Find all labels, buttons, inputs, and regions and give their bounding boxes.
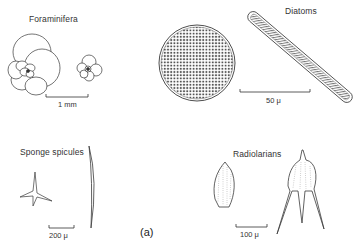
centric-diatom xyxy=(159,25,235,101)
microfossil-figure: Foraminifera 1 mm Diatoms 50 μ Sponge sp… xyxy=(0,0,356,245)
sponge-scale-bar xyxy=(49,225,74,228)
diatom-scale-bar xyxy=(240,89,310,92)
panel-label: (a) xyxy=(140,226,153,238)
foraminifera-scale-bar xyxy=(46,94,88,97)
label-sponge-spicules: Sponge spicules xyxy=(20,147,84,157)
foraminifera-small-shell xyxy=(77,55,102,81)
label-diatoms: Diatoms xyxy=(285,6,317,16)
radiolarian-scale-bar xyxy=(236,224,267,227)
pennate-diatom xyxy=(245,9,354,104)
scale-label-foraminifera: 1 mm xyxy=(58,100,77,109)
illustration-layer xyxy=(0,0,356,245)
scale-label-diatoms: 50 μ xyxy=(266,96,281,105)
scale-label-sponge-spicules: 200 μ xyxy=(49,231,68,240)
radiolarian-spindle xyxy=(214,162,234,207)
label-foraminifera: Foraminifera xyxy=(29,14,78,24)
scale-label-radiolarians: 100 μ xyxy=(240,230,259,239)
sponge-spicule-triaxon xyxy=(20,172,52,206)
label-radiolarians: Radiolarians xyxy=(233,149,281,159)
foraminifera-large-shell xyxy=(8,34,60,95)
radiolarian-tripod xyxy=(277,150,324,234)
sponge-spicule-monaxon xyxy=(89,146,94,228)
